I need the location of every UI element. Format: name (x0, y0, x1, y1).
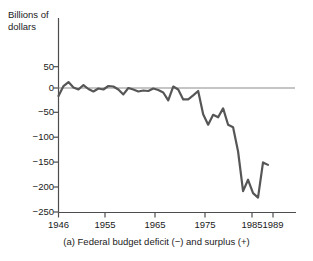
x-tick-label: 1989 (253, 220, 293, 230)
x-tick-label: 1965 (135, 220, 175, 230)
x-tick-label: 1946 (39, 220, 79, 230)
x-tick-label: 1975 (185, 220, 225, 230)
chart-figure: Billions of dollars (0, 0, 313, 261)
x-tick-labels: 1946 1955 1965 1975 1985 1989 (0, 0, 313, 261)
figure-caption: (a) Federal budget deficit (−) and surpl… (0, 236, 313, 247)
x-tick-label: 1955 (85, 220, 125, 230)
